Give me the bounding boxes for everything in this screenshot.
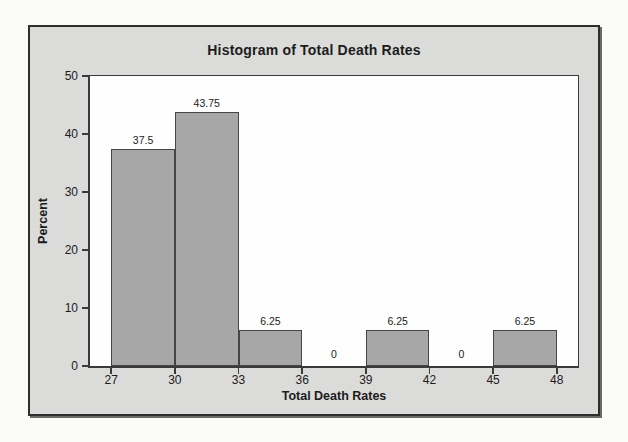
y-tick-mark	[82, 75, 88, 77]
x-axis-title: Total Death Rates	[282, 389, 387, 403]
histogram-bar	[239, 330, 303, 366]
y-tick-mark	[82, 249, 88, 251]
bar-value-label: 43.75	[194, 97, 220, 109]
histogram-bar	[493, 330, 557, 366]
x-tick-label: 39	[359, 373, 372, 387]
y-tick-label: 50	[65, 69, 78, 83]
bar-value-label: 6.25	[515, 315, 535, 327]
y-tick-label: 30	[65, 185, 78, 199]
y-tick-mark	[82, 307, 88, 309]
bar-value-label: 0	[458, 348, 464, 360]
x-tick-label: 48	[550, 373, 563, 387]
y-tick-label: 10	[65, 301, 78, 315]
x-tick-label: 30	[168, 373, 181, 387]
bar-value-label: 6.25	[260, 315, 280, 327]
bar-value-label: 6.25	[387, 315, 407, 327]
bar-value-label: 0	[331, 348, 337, 360]
plot-area: Percent Total Death Rates 37.543.756.250…	[88, 75, 579, 368]
y-tick-mark	[82, 191, 88, 193]
y-tick-label: 40	[65, 127, 78, 141]
y-axis-title: Percent	[36, 198, 50, 244]
y-tick-mark	[82, 365, 88, 367]
y-tick-label: 20	[65, 243, 78, 257]
bar-value-label: 37.5	[133, 134, 153, 146]
y-tick-label: 0	[71, 359, 78, 373]
x-tick-label: 33	[232, 373, 245, 387]
x-tick-label: 45	[486, 373, 499, 387]
chart-frame: Histogram of Total Death Rates Percent T…	[28, 25, 600, 416]
scanned-chart-page: Histogram of Total Death Rates Percent T…	[0, 0, 628, 442]
y-tick-mark	[82, 133, 88, 135]
x-tick-label: 42	[423, 373, 436, 387]
histogram-bar	[366, 330, 430, 366]
histogram-bar	[111, 149, 175, 367]
x-tick-label: 27	[105, 373, 118, 387]
chart-title: Histogram of Total Death Rates	[30, 42, 598, 58]
histogram-bar	[175, 112, 239, 366]
x-tick-label: 36	[295, 373, 308, 387]
